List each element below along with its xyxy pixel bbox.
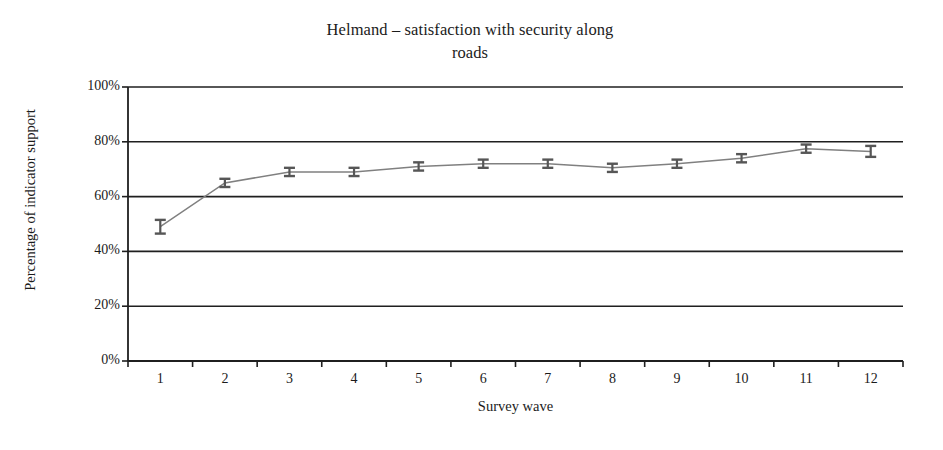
y-tick-label: 60% bbox=[60, 188, 120, 204]
x-tick-label: 11 bbox=[786, 371, 826, 387]
x-tick-label: 10 bbox=[722, 371, 762, 387]
series-line bbox=[160, 149, 870, 227]
y-tick-label: 40% bbox=[60, 242, 120, 258]
chart-figure: Helmand – satisfaction with security alo… bbox=[0, 0, 943, 450]
x-tick-label: 9 bbox=[657, 371, 697, 387]
x-tick-label: 12 bbox=[851, 371, 891, 387]
x-tick-label: 1 bbox=[140, 371, 180, 387]
x-tick-label: 5 bbox=[399, 371, 439, 387]
data-line bbox=[160, 149, 870, 227]
error-bar bbox=[155, 220, 166, 234]
x-tick-label: 3 bbox=[269, 371, 309, 387]
error-bars bbox=[155, 145, 876, 234]
y-tick-label: 0% bbox=[60, 352, 120, 368]
y-tick-label: 80% bbox=[60, 133, 120, 149]
axis-lines bbox=[128, 87, 903, 361]
y-tick-label: 100% bbox=[60, 78, 120, 94]
x-tick-label: 6 bbox=[463, 371, 503, 387]
x-tick-label: 2 bbox=[205, 371, 245, 387]
x-tick-label: 8 bbox=[592, 371, 632, 387]
y-tick-label: 20% bbox=[60, 297, 120, 313]
x-tick-label: 7 bbox=[528, 371, 568, 387]
x-tick-label: 4 bbox=[334, 371, 374, 387]
gridlines bbox=[128, 87, 903, 361]
